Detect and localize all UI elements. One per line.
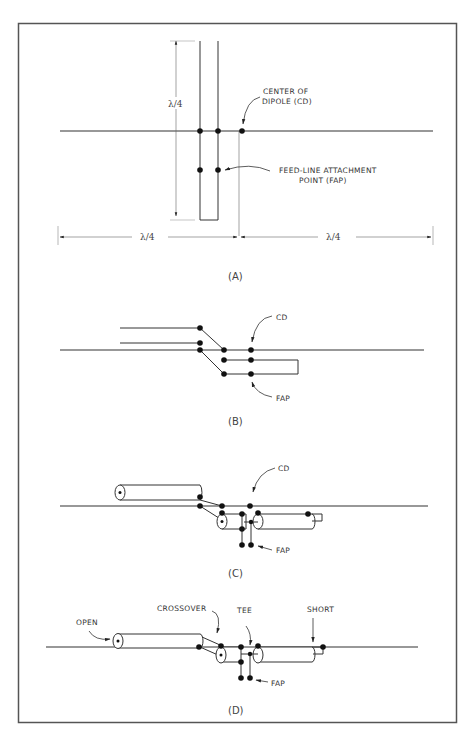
panel-d-label: (D) (228, 705, 244, 716)
fap-label-line1: FEED-LINE ATTACHMENT (279, 166, 377, 175)
left-arm-dimension-label: λ/4 (140, 232, 155, 242)
cd-label-line1: CENTER OF (263, 87, 308, 96)
cd-leader-arrow (252, 316, 272, 342)
panel-a-label: (A) (228, 271, 243, 282)
fap-leader-arrow (256, 680, 268, 682)
panel-c-label: (C) (228, 568, 243, 579)
open-label: OPEN (76, 618, 98, 627)
panel-d (46, 611, 418, 682)
tee-label: TEE (236, 606, 252, 615)
stub-dimension-label: λ/4 (168, 99, 183, 109)
crossover-label: CROSSOVER (157, 604, 206, 613)
cd-label: CD (278, 464, 290, 473)
fap-leader-arrow (252, 382, 272, 397)
coax-section (120, 485, 202, 500)
right-arm-dimension-label: λ/4 (326, 232, 341, 242)
cd-label: CD (276, 313, 288, 322)
figure-canvas: CENTER OF DIPOLE (CD) FEED-LINE ATTACHME… (0, 0, 464, 738)
fap-label: FAP (276, 394, 290, 403)
cd-leader-arrow (243, 97, 260, 124)
junction-dots (197, 128, 245, 173)
panel-c (60, 468, 428, 550)
panel-b (60, 316, 424, 397)
fap-leader-arrow (225, 166, 270, 171)
open-leader-arrow (89, 631, 110, 639)
fap-label-line2: POINT (FAP) (299, 176, 347, 185)
panel-a (58, 41, 433, 245)
fap-leader-arrow (258, 546, 272, 550)
fap-label: FAP (276, 546, 290, 555)
tee-leader-arrow (246, 626, 251, 645)
crossover-leader-arrow (212, 611, 219, 633)
cd-leader-arrow (253, 468, 275, 492)
short-label: SHORT (307, 605, 334, 614)
cd-label-line2: DIPOLE (CD) (262, 97, 312, 106)
panel-b-label: (B) (228, 416, 243, 427)
fap-label: FAP (271, 679, 285, 688)
coax-section (118, 634, 203, 648)
